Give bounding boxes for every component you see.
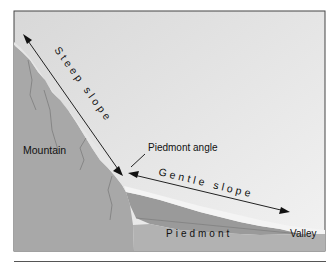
piedmont-diagram: Steep slope Gentle slope Piedmont angle … xyxy=(0,0,333,262)
mountain-label: Mountain xyxy=(23,144,66,156)
piedmont-label: Piedmont xyxy=(166,228,232,239)
valley-label: Valley xyxy=(290,228,317,239)
piedmont-angle-label: Piedmont angle xyxy=(148,142,218,153)
